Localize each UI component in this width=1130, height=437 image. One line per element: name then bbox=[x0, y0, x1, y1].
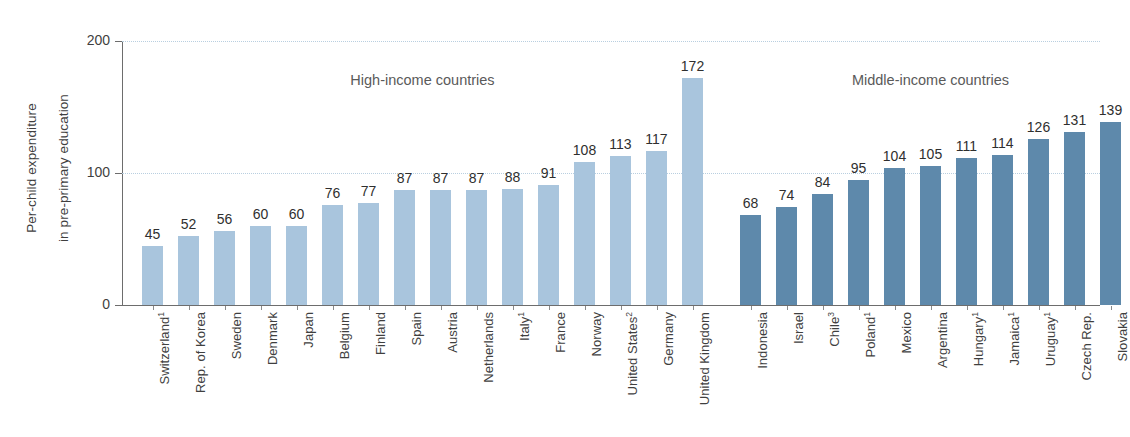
bar[interactable] bbox=[776, 207, 797, 305]
x-tick-mark bbox=[751, 306, 752, 310]
bar-value-label: 84 bbox=[799, 174, 847, 190]
x-axis-label: Indonesia bbox=[756, 312, 770, 437]
x-axis-label: Uruguay1 bbox=[1044, 312, 1058, 437]
x-tick-mark bbox=[405, 306, 406, 310]
x-tick-mark bbox=[1075, 306, 1076, 310]
x-tick-mark bbox=[1111, 306, 1112, 310]
x-axis-label: Denmark bbox=[266, 312, 280, 437]
x-axis-label: Netherlands bbox=[482, 312, 496, 437]
x-axis-label: Mexico bbox=[900, 312, 914, 437]
x-tick-mark bbox=[153, 306, 154, 310]
bar[interactable] bbox=[574, 162, 595, 305]
x-tick-mark bbox=[477, 306, 478, 310]
x-tick-mark bbox=[823, 306, 824, 310]
x-tick-mark bbox=[513, 306, 514, 310]
x-axis-label: Finland bbox=[374, 312, 388, 437]
x-tick-mark bbox=[1003, 306, 1004, 310]
x-axis-label: Norway bbox=[590, 312, 604, 437]
x-tick-mark bbox=[657, 306, 658, 310]
x-tick-mark bbox=[787, 306, 788, 310]
bar[interactable] bbox=[538, 185, 559, 305]
bar[interactable] bbox=[848, 180, 869, 305]
x-tick-mark bbox=[585, 306, 586, 310]
x-tick-mark bbox=[297, 306, 298, 310]
x-axis-label: Rep. of Korea bbox=[194, 312, 208, 437]
x-axis-label: Chile3 bbox=[828, 312, 842, 437]
bar[interactable] bbox=[502, 189, 523, 305]
bar-value-label: 91 bbox=[525, 165, 573, 181]
x-tick-mark bbox=[441, 306, 442, 310]
x-tick-mark bbox=[621, 306, 622, 310]
bar[interactable] bbox=[812, 194, 833, 305]
bar[interactable] bbox=[992, 155, 1013, 305]
x-axis-label: Belgium bbox=[338, 312, 352, 437]
y-tick-label: 0 bbox=[30, 296, 110, 312]
bar[interactable] bbox=[740, 215, 761, 305]
x-axis-line bbox=[122, 305, 1100, 306]
bar[interactable] bbox=[884, 168, 905, 305]
bar-value-label: 60 bbox=[273, 206, 321, 222]
x-tick-mark bbox=[225, 306, 226, 310]
bar[interactable] bbox=[214, 231, 235, 305]
bar-value-label: 172 bbox=[669, 58, 717, 74]
bar[interactable] bbox=[466, 190, 487, 305]
bar-value-label: 114 bbox=[979, 135, 1027, 151]
x-tick-mark bbox=[967, 306, 968, 310]
bar[interactable] bbox=[610, 156, 631, 305]
x-axis-label: Japan bbox=[302, 312, 316, 437]
y-tick-mark bbox=[115, 173, 122, 174]
x-tick-mark bbox=[369, 306, 370, 310]
x-axis-label: Switzerland1 bbox=[158, 312, 172, 437]
y-tick-label: 100 bbox=[30, 164, 110, 180]
bar[interactable] bbox=[358, 203, 379, 305]
bar[interactable] bbox=[322, 205, 343, 305]
y-tick-mark bbox=[115, 305, 122, 306]
bar[interactable] bbox=[646, 151, 667, 305]
bar[interactable] bbox=[178, 236, 199, 305]
x-tick-mark bbox=[859, 306, 860, 310]
x-axis-label: Poland1 bbox=[864, 312, 878, 437]
x-tick-mark bbox=[189, 306, 190, 310]
bar[interactable] bbox=[1064, 132, 1085, 305]
x-tick-mark bbox=[1039, 306, 1040, 310]
y-tick-label: 200 bbox=[30, 32, 110, 48]
group-label: Middle-income countries bbox=[852, 72, 1009, 88]
x-axis-label: Czech Rep. bbox=[1080, 312, 1094, 437]
bar[interactable] bbox=[920, 166, 941, 305]
bar[interactable] bbox=[394, 190, 415, 305]
bar[interactable] bbox=[250, 226, 271, 305]
x-tick-mark bbox=[261, 306, 262, 310]
x-axis-label: Spain bbox=[410, 312, 424, 437]
x-axis-label: Germany bbox=[662, 312, 676, 437]
y-tick-mark bbox=[115, 41, 122, 42]
x-axis-label: Italy1 bbox=[518, 312, 532, 437]
bar-value-label: 139 bbox=[1087, 102, 1130, 118]
bar-chart: Per-child expenditure in pre-primary edu… bbox=[0, 0, 1130, 437]
bar[interactable] bbox=[956, 158, 977, 305]
x-tick-mark bbox=[693, 306, 694, 310]
bar[interactable] bbox=[286, 226, 307, 305]
x-axis-label: Jamaica1 bbox=[1008, 312, 1022, 437]
x-axis-label: United States2 bbox=[626, 312, 640, 437]
x-axis-label: United Kingdom bbox=[698, 312, 712, 437]
x-axis-label: Austria bbox=[446, 312, 460, 437]
x-tick-mark bbox=[931, 306, 932, 310]
group-label: High-income countries bbox=[350, 72, 494, 88]
x-axis-label: France bbox=[554, 312, 568, 437]
bar[interactable] bbox=[430, 190, 451, 305]
x-axis-label: Slovakia bbox=[1116, 312, 1130, 437]
x-axis-label: Argentina bbox=[936, 312, 950, 437]
x-axis-label: Israel bbox=[792, 312, 806, 437]
bar[interactable] bbox=[682, 78, 703, 305]
bar[interactable] bbox=[142, 246, 163, 305]
bar[interactable] bbox=[1100, 122, 1121, 305]
bar-value-label: 117 bbox=[633, 131, 681, 147]
x-axis-label: Hungary1 bbox=[972, 312, 986, 437]
x-tick-mark bbox=[549, 306, 550, 310]
bar[interactable] bbox=[1028, 139, 1049, 305]
gridline bbox=[122, 41, 1100, 42]
x-axis-label: Sweden bbox=[230, 312, 244, 437]
x-tick-mark bbox=[333, 306, 334, 310]
x-tick-mark bbox=[895, 306, 896, 310]
